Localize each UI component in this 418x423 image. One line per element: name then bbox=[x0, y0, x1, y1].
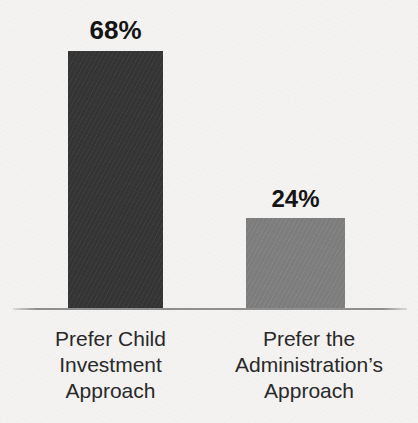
category-label-0-line-0: Prefer Child bbox=[8, 326, 213, 352]
category-label-prefer-child-investment-approach: Prefer Child Investment Approach bbox=[8, 326, 213, 404]
category-label-0-line-1: Investment bbox=[8, 352, 213, 378]
category-axis-labels: Prefer Child Investment Approach Prefer … bbox=[0, 326, 418, 423]
category-label-0-line-2: Approach bbox=[8, 378, 213, 404]
bar-value-label-0: 68% bbox=[68, 15, 163, 46]
category-label-prefer-the-administrations-approach: Prefer the Administration’s Approach bbox=[206, 326, 412, 404]
bar-prefer-the-administrations-approach[interactable] bbox=[246, 218, 345, 309]
bar-chart: 68% 24% Prefer Child Investment Approach… bbox=[0, 0, 418, 423]
bar-prefer-child-investment-approach[interactable] bbox=[68, 51, 163, 309]
category-label-1-line-2: Approach bbox=[206, 378, 412, 404]
x-axis-baseline bbox=[13, 308, 407, 310]
category-label-1-line-0: Prefer the bbox=[206, 326, 412, 352]
bar-value-label-1: 24% bbox=[246, 185, 345, 213]
category-label-1-line-1: Administration’s bbox=[206, 352, 412, 378]
plot-area: 68% 24% bbox=[0, 0, 418, 309]
